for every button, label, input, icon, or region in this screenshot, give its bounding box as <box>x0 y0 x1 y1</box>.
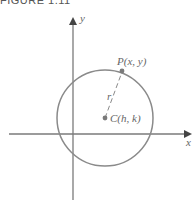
point-p-label: P(x, y) <box>116 55 147 68</box>
point-c <box>103 116 108 121</box>
point-c-label: C(h, k) <box>110 112 141 125</box>
point-p <box>120 69 125 74</box>
x-axis-label: x <box>185 136 191 148</box>
y-axis-label: y <box>79 12 85 24</box>
circle-diagram: y x P(x, y) C(h, k) r <box>0 0 196 206</box>
radius-label: r <box>107 90 112 102</box>
